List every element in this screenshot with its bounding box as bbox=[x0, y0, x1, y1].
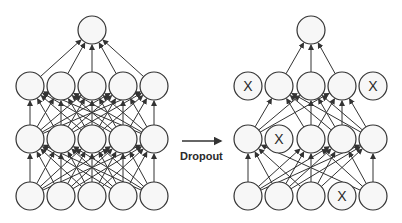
dropout-network: XXXX bbox=[234, 16, 387, 210]
neuron bbox=[297, 182, 325, 210]
neuron bbox=[16, 72, 44, 100]
neuron bbox=[16, 182, 44, 210]
neuron bbox=[140, 125, 168, 153]
neuron bbox=[297, 16, 325, 44]
neuron bbox=[109, 182, 137, 210]
neuron bbox=[328, 72, 356, 100]
neuron bbox=[109, 125, 137, 153]
layer-output bbox=[78, 16, 106, 44]
neuron bbox=[234, 125, 262, 153]
neuron bbox=[297, 72, 325, 100]
neuron bbox=[140, 182, 168, 210]
connections bbox=[248, 43, 373, 190]
neuron bbox=[234, 182, 262, 210]
neuron bbox=[140, 72, 168, 100]
neuron bbox=[78, 182, 106, 210]
dropped-neuron: X bbox=[234, 72, 262, 100]
neuron bbox=[78, 72, 106, 100]
layer-hidden2 bbox=[16, 72, 168, 100]
neuron bbox=[359, 182, 387, 210]
connections bbox=[30, 40, 154, 190]
neuron bbox=[16, 125, 44, 153]
neuron bbox=[47, 72, 75, 100]
dropped-x-icon: X bbox=[243, 78, 253, 94]
neuron bbox=[265, 182, 293, 210]
layer-output bbox=[297, 16, 325, 44]
layer-input bbox=[16, 182, 168, 210]
dropout-diagram: XXXX bbox=[0, 0, 402, 223]
dropout-label: Dropout bbox=[180, 150, 223, 162]
neuron bbox=[297, 125, 325, 153]
neuron bbox=[47, 182, 75, 210]
neuron bbox=[78, 125, 106, 153]
layer-input: X bbox=[234, 182, 387, 210]
layer-hidden1: X bbox=[234, 125, 387, 153]
standard-network bbox=[16, 16, 168, 210]
dropped-x-icon: X bbox=[368, 78, 378, 94]
dropped-neuron: X bbox=[265, 125, 293, 153]
neuron bbox=[265, 72, 293, 100]
neuron bbox=[109, 72, 137, 100]
layer-hidden1 bbox=[16, 125, 168, 153]
neuron bbox=[47, 125, 75, 153]
dropped-neuron: X bbox=[359, 72, 387, 100]
neuron bbox=[359, 125, 387, 153]
dropped-x-icon: X bbox=[337, 188, 347, 204]
neuron bbox=[328, 125, 356, 153]
dropped-neuron: X bbox=[328, 182, 356, 210]
layer-hidden2: XX bbox=[234, 72, 387, 100]
neuron bbox=[78, 16, 106, 44]
dropped-x-icon: X bbox=[274, 131, 284, 147]
